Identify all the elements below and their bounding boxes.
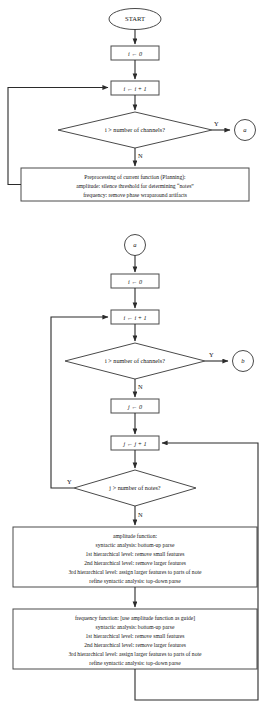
- node-amplitude-function: amplitude function: syntactic analysis: …: [13, 527, 257, 587]
- node-init-i: i ← 0: [111, 46, 159, 60]
- preprocess-line-2: amplitude: silence threshold for determi…: [76, 183, 194, 189]
- edge-label-yes-3: Y: [67, 478, 72, 485]
- incr-i2-label: i ← i + 1: [123, 314, 146, 321]
- edge-label-no-1: N: [138, 152, 143, 159]
- node-start: START: [109, 9, 161, 30]
- incr-j-label: j ← j + 1: [122, 440, 146, 447]
- preprocess-line-3: frequency: remove phase wraparound artif…: [83, 192, 187, 198]
- decision-3-label: j > number of notes?: [108, 484, 161, 491]
- node-incr-j: j ← j + 1: [111, 436, 159, 450]
- node-decision-channels-2: i > number of channels?: [65, 343, 205, 379]
- amplitude-line-3: 1st hierarchical level: remove small fea…: [86, 551, 185, 557]
- node-connector-a-out: a: [235, 120, 256, 141]
- node-incr-i: i ← i + 1: [111, 81, 159, 95]
- flowchart-canvas: START i ← 0 i ← i + 1 i > number of chan…: [0, 0, 270, 708]
- frequency-line-4: 2nd hierarchical level: remove larger fe…: [84, 642, 186, 648]
- frequency-line-2: syntactic analysis: bottom-up parse: [96, 624, 175, 630]
- amplitude-line-1: amplitude function:: [113, 533, 157, 539]
- node-preprocess: Preprocessing of current function (Plann…: [21, 168, 249, 201]
- amplitude-line-5: 3rd hierarchical level: assign larger fe…: [68, 569, 202, 575]
- decision-1-label: i > number of channels?: [105, 126, 165, 133]
- edge-label-no-2: N: [138, 383, 143, 390]
- edge-label-yes-2: Y: [209, 351, 214, 358]
- edge-label-yes-1: Y: [214, 120, 219, 127]
- start-label: START: [125, 15, 145, 22]
- node-connector-a-in: a: [125, 235, 146, 256]
- node-frequency-function: frequency function: [use amplitude funct…: [13, 609, 257, 669]
- node-decision-channels-1: i > number of channels?: [58, 112, 212, 148]
- node-connector-b: b: [233, 351, 254, 372]
- decision-2-label: i > number of channels?: [105, 357, 165, 364]
- init-i2-label: i ← 0: [128, 278, 143, 285]
- node-init-j: j ← 0: [111, 399, 159, 413]
- node-decision-notes: j > number of notes?: [74, 470, 196, 506]
- init-j-label: j ← 0: [127, 403, 143, 410]
- node-incr-i2: i ← i + 1: [111, 310, 159, 324]
- incr-i-label: i ← i + 1: [123, 85, 146, 92]
- amplitude-line-4: 2nd hierarchical level: remove larger fe…: [84, 560, 186, 566]
- frequency-line-5: 3rd hierarchical level: assign larger fe…: [68, 651, 202, 657]
- frequency-line-6: refine syntactic analysis: top-down pars…: [89, 660, 181, 666]
- frequency-line-1: frequency function: [use amplitude funct…: [75, 615, 195, 621]
- edge-label-no-3: N: [138, 511, 143, 518]
- frequency-line-3: 1st hierarchical level: remove small fea…: [86, 633, 185, 639]
- preprocess-line-1: Preprocessing of current function (Plann…: [84, 174, 186, 181]
- edge-decision-3-yes-loopback: [51, 317, 108, 488]
- init-i-label: i ← 0: [128, 50, 143, 57]
- amplitude-line-6: refine syntactic analysis: top-down pars…: [89, 578, 181, 584]
- node-init-i2: i ← 0: [111, 274, 159, 288]
- amplitude-line-2: syntactic analysis: bottom-up parse: [96, 542, 175, 548]
